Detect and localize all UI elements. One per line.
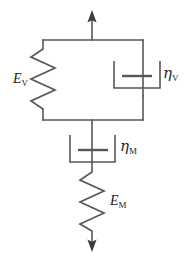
arrow-top-icon [87,10,96,40]
spring-maxwell [80,172,104,231]
label-dashpot-maxwell-subscript: M [129,146,137,156]
label-dashpot-voigt-subscript: V [172,73,179,83]
label-dashpot-voigt: ηV [163,65,179,83]
label-spring-maxwell: EM [110,192,127,210]
arrow-bottom-icon [87,231,96,252]
model-schematic-svg [0,0,192,258]
label-spring-maxwell-subscript: M [119,200,127,210]
label-spring-maxwell-symbol: E [110,193,119,208]
label-spring-voigt-subscript: V [22,78,29,88]
spring-voigt [31,49,55,109]
label-dashpot-maxwell: ηM [120,138,137,156]
mechanical-model-diagram: EV ηV ηM EM [0,0,192,258]
label-dashpot-voigt-symbol: η [163,64,172,82]
label-dashpot-maxwell-symbol: η [120,137,129,155]
label-spring-voigt: EV [13,70,28,88]
dashpot-voigt [114,61,160,88]
label-spring-voigt-symbol: E [13,71,22,86]
